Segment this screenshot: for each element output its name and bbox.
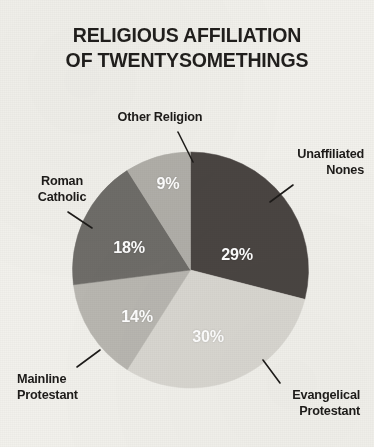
callout-unaffiliated-nones-line-2: Nones: [297, 162, 364, 178]
leader-line-mainline-protestant: [77, 350, 100, 367]
callout-other-religion-line-1: Other Religion: [99, 109, 221, 125]
chart-title-line-2: OF TWENTYSOMETHINGS: [13, 47, 361, 72]
slice-value-mainline-protestant: 14%: [121, 308, 152, 325]
callout-evangelical-protestant-line-2: Protestant: [292, 403, 360, 419]
slice-value-other-religion: 9%: [157, 175, 180, 192]
leader-line-evangelical-protestant: [263, 360, 280, 383]
callout-evangelical-protestant: Evangelical Protestant: [292, 387, 360, 419]
callout-roman-catholic-line-2: Catholic: [17, 189, 107, 205]
callout-mainline-protestant: Mainline Protestant: [17, 371, 78, 403]
callout-roman-catholic-line-1: Roman: [17, 173, 107, 189]
callout-other-religion: Other Religion: [99, 109, 221, 125]
callout-evangelical-protestant-line-1: Evangelical: [292, 387, 360, 403]
chart-title-line-1: RELIGIOUS AFFILIATION: [13, 22, 361, 47]
slice-value-unaffiliated-nones: 29%: [221, 246, 252, 263]
callout-mainline-protestant-line-1: Mainline: [17, 371, 78, 387]
callout-mainline-protestant-line-2: Protestant: [17, 387, 78, 403]
chart-page: RELIGIOUS AFFILIATION OF TWENTYSOMETHING…: [0, 0, 374, 447]
chart-title: RELIGIOUS AFFILIATION OF TWENTYSOMETHING…: [0, 22, 374, 72]
callout-unaffiliated-nones-line-1: Unaffiliated: [297, 146, 364, 162]
pie-slice-group: [72, 152, 308, 388]
slice-value-evangelical-protestant: 30%: [192, 328, 223, 345]
callout-unaffiliated-nones: Unaffiliated Nones: [297, 146, 364, 178]
callout-roman-catholic: Roman Catholic: [17, 173, 107, 205]
slice-value-roman-catholic: 18%: [113, 239, 144, 256]
